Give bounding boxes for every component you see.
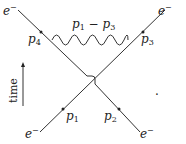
time-axis-label: time: [7, 78, 20, 103]
label-e-bottom-left: e−: [25, 126, 39, 141]
label-e-top-left: e−: [3, 3, 17, 18]
label-photon-momentum: p1 − p3: [72, 17, 115, 32]
photon-line: [52, 35, 128, 45]
label-p4: p4: [28, 32, 41, 47]
label-e-bottom-right: e−: [140, 126, 154, 141]
p2-dot: [118, 108, 121, 111]
label-p2: p2: [104, 109, 117, 124]
p4-dot: [40, 31, 43, 34]
label-e-top-right: e−: [158, 3, 172, 18]
trailing-period: .: [155, 84, 159, 98]
feynman-diagram: e− e− e− e− p4 p3 p1 p2 p1 − p3 time .: [0, 0, 186, 144]
label-p3: p3: [141, 32, 154, 47]
time-arrow-head: [21, 62, 25, 67]
label-p1: p1: [66, 109, 79, 124]
p1-dot: [62, 108, 65, 111]
